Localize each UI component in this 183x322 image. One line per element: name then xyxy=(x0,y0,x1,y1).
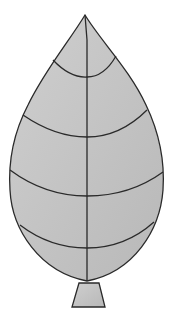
leaf-diagram xyxy=(0,0,183,322)
stem xyxy=(72,283,105,307)
